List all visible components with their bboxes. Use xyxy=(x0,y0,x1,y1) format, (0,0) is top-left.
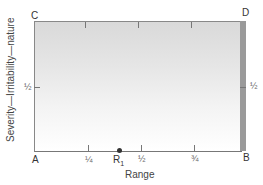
top-tick-three-quarter xyxy=(191,22,192,28)
point-label-subscript: 1 xyxy=(120,160,124,167)
corner-label-a: A xyxy=(32,154,39,165)
corner-label-c: C xyxy=(31,10,38,21)
x-tick-label-quarter: ¼ xyxy=(85,154,93,164)
corner-label-d: D xyxy=(242,7,249,18)
right-tick-half xyxy=(240,87,246,88)
y-axis-title: Severity—Irritability—nature xyxy=(5,18,16,142)
bottom-tick-quarter xyxy=(88,145,89,151)
x-tick-label-three-quarter: ¾ xyxy=(191,153,199,163)
x-axis-title: Range xyxy=(125,169,154,180)
top-tick-half xyxy=(138,22,139,28)
x-tick-label-half: ½ xyxy=(138,154,146,164)
left-tick-half xyxy=(34,87,40,88)
y-tick-label-right-half: ½ xyxy=(250,81,258,91)
bottom-tick-half xyxy=(141,145,142,151)
y-tick-label-left-half: ½ xyxy=(24,82,32,92)
corner-label-b: B xyxy=(243,152,250,163)
plot-area-gradient xyxy=(34,21,242,152)
top-tick-quarter xyxy=(85,22,86,28)
edge-bar-BD xyxy=(240,21,246,151)
bottom-tick-three-quarter xyxy=(194,145,195,151)
point-r1-marker xyxy=(117,148,122,153)
point-r1-label: R1 xyxy=(113,154,124,167)
